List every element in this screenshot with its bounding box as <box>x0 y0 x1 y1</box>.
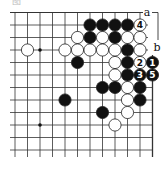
move-number: 4 <box>137 20 143 30</box>
black-stone <box>84 31 96 43</box>
marker-b: b <box>153 41 160 54</box>
black-stone <box>109 31 121 43</box>
black-stone <box>96 81 108 93</box>
white-stone <box>109 56 121 68</box>
move-number: 2 <box>137 58 143 68</box>
go-board: 42135 ab <box>0 0 168 170</box>
marker-a: a <box>144 6 151 19</box>
white-stone <box>21 44 33 56</box>
move-number: 1 <box>149 58 155 68</box>
white-stone <box>109 119 121 131</box>
white-stone <box>96 31 108 43</box>
black-stone <box>134 81 146 93</box>
black-stone <box>59 94 71 106</box>
white-stone <box>109 69 121 81</box>
move-number: 5 <box>149 70 155 80</box>
white-stone <box>121 106 133 118</box>
a-b-bracket <box>152 13 158 41</box>
black-stone <box>96 106 108 118</box>
white-stone <box>84 44 96 56</box>
black-stone <box>121 19 133 31</box>
white-stone <box>71 44 83 56</box>
white-stone <box>121 94 133 106</box>
black-stone <box>109 81 121 93</box>
white-stone <box>121 81 133 93</box>
white-stone <box>59 44 71 56</box>
star-point <box>38 123 42 127</box>
white-stone <box>134 44 146 56</box>
white-stone <box>109 44 121 56</box>
white-stone <box>134 31 146 43</box>
black-stone <box>71 56 83 68</box>
black-stone <box>121 69 133 81</box>
white-stone <box>121 31 133 43</box>
black-stone <box>96 19 108 31</box>
black-stone <box>121 56 133 68</box>
black-stone <box>134 94 146 106</box>
star-point <box>38 48 42 52</box>
black-stone <box>109 19 121 31</box>
bracket-line <box>152 13 158 41</box>
move-number: 3 <box>137 70 143 80</box>
black-stone <box>84 19 96 31</box>
white-stone <box>71 31 83 43</box>
white-stone <box>96 44 108 56</box>
black-stone <box>121 44 133 56</box>
